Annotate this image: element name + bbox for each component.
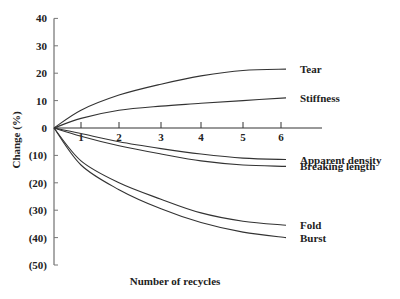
series-label-stiffness: Stiffness xyxy=(300,92,340,104)
y-tick-label: 40 xyxy=(36,12,48,24)
series-line-burst xyxy=(54,128,286,238)
series-label-fold: Fold xyxy=(300,219,321,231)
x-tick-label: 4 xyxy=(198,131,204,143)
series-line-breaking-length xyxy=(54,128,286,166)
y-tick-label: (40) xyxy=(29,232,48,245)
y-axis: 403020100(10)(20)(30)(40)(50) xyxy=(29,12,58,272)
series-label-burst: Burst xyxy=(300,232,327,244)
y-tick-label: 0 xyxy=(42,122,48,134)
series-labels: TearStiffnessApparent densityBreaking le… xyxy=(300,63,382,244)
series-line-tear xyxy=(54,69,286,128)
y-tick-label: (30) xyxy=(29,204,48,217)
series-label-tear: Tear xyxy=(300,63,322,75)
series-label-breaking-length: Breaking length xyxy=(300,160,375,172)
series-lines xyxy=(54,69,286,238)
series-line-apparent-density xyxy=(54,128,286,160)
y-tick-label: (10) xyxy=(29,149,48,162)
y-tick-label: 10 xyxy=(36,95,48,107)
x-tick-label: 6 xyxy=(278,131,284,143)
x-tick-label: 5 xyxy=(240,131,246,143)
y-tick-label: 30 xyxy=(36,40,48,52)
y-tick-label: (20) xyxy=(29,177,48,190)
series-line-stiffness xyxy=(54,98,286,128)
y-tick-label: (50) xyxy=(29,259,48,272)
x-axis-title: Number of recycles xyxy=(130,275,221,287)
x-tick-label: 3 xyxy=(158,131,164,143)
y-axis-title: Change (%) xyxy=(10,111,23,168)
y-tick-label: 20 xyxy=(36,67,48,79)
line-chart: 403020100(10)(20)(30)(40)(50) 123456 Tea… xyxy=(0,0,400,299)
series-line-fold xyxy=(54,128,286,225)
